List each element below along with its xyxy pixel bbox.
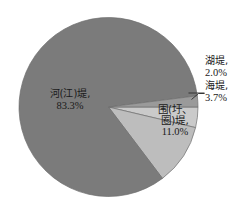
slice-label-sea: 海堤, 3.7% (205, 81, 251, 103)
slice-label-river: 河(江)堤, 83.3% (30, 89, 110, 111)
slice-label-sea-name: 海堤, (205, 81, 251, 92)
slice-label-sea-percent: 3.7% (205, 92, 251, 103)
slice-label-river-name: 河(江)堤, (30, 89, 110, 100)
slice-label-river-percent: 83.3% (30, 100, 110, 111)
slice-label-lake-percent: 2.0% (205, 67, 251, 78)
slice-label-enclosure: 围(圩、 圈)堤, 11.0% (146, 104, 204, 137)
slice-label-lake-name: 湖堤, (205, 56, 251, 67)
slice-label-lake: 湖堤, 2.0% (205, 56, 251, 78)
slice-label-enclosure-name-line2: 圈)堤, (146, 115, 204, 126)
pie-chart-figure: 河(江)堤, 83.3% 围(圩、 圈)堤, 11.0% 湖堤, 2.0% 海堤… (0, 0, 252, 213)
slice-label-enclosure-percent: 11.0% (146, 126, 204, 137)
